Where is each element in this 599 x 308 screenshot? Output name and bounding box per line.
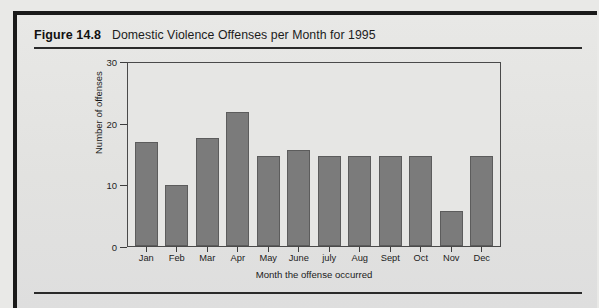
bar-jan (135, 142, 158, 246)
x-tick-slot (253, 247, 284, 252)
caption-divider (34, 47, 582, 49)
bar-slot (253, 63, 284, 246)
x-axis: JanFebMarAprMayJunejulyAugSeptOctNovDec … (127, 247, 501, 281)
figure-box: Figure 14.8 Domestic Violence Offenses p… (13, 11, 597, 308)
x-axis-ticks (128, 247, 500, 252)
x-tick-slot (314, 247, 345, 252)
chart-plot-area (127, 62, 501, 247)
y-tick (120, 247, 127, 248)
bar-slot (131, 63, 162, 246)
bar-june (287, 150, 310, 246)
x-tick-label-june: June (284, 253, 315, 263)
y-tick (120, 62, 127, 63)
x-tick-label-nov: Nov (436, 253, 467, 263)
x-tick (268, 247, 269, 252)
bar-slot (162, 63, 193, 246)
x-tick (390, 247, 391, 252)
bar-july (318, 156, 341, 246)
x-tick (481, 247, 482, 252)
figure-title: Domestic Violence Offenses per Month for… (112, 28, 376, 42)
bar-aug (348, 156, 371, 246)
y-tick-label: 10 (106, 180, 117, 191)
figure-bottom-divider (34, 292, 582, 294)
x-tick-slot (284, 247, 315, 252)
bar-slot (406, 63, 437, 246)
bar-slot (314, 63, 345, 246)
bar-slot (223, 63, 254, 246)
bar-apr (226, 112, 249, 246)
x-tick (359, 247, 360, 252)
x-tick (451, 247, 452, 252)
x-tick-slot (436, 247, 467, 252)
x-tick-label-sept: Sept (375, 253, 406, 263)
bar-series (128, 63, 500, 246)
x-tick-label-mar: Mar (192, 253, 223, 263)
x-tick-slot (162, 247, 193, 252)
bar-slot (467, 63, 498, 246)
x-tick-label-oct: Oct (406, 253, 437, 263)
bar-may (257, 156, 280, 246)
y-axis-title: Number of offenses (93, 71, 104, 154)
y-tick-label: 20 (106, 118, 117, 129)
x-axis-tick-labels: JanFebMarAprMayJunejulyAugSeptOctNovDec (128, 253, 500, 263)
x-tick-label-feb: Feb (162, 253, 193, 263)
x-tick-label-dec: Dec (467, 253, 498, 263)
x-tick (298, 247, 299, 252)
x-tick-label-apr: Apr (223, 253, 254, 263)
bar-slot (436, 63, 467, 246)
bar-slot (192, 63, 223, 246)
bar-slot (345, 63, 376, 246)
x-tick-slot (406, 247, 437, 252)
x-tick-label-july: july (314, 253, 345, 263)
y-tick (120, 124, 127, 125)
x-tick (207, 247, 208, 252)
x-tick-label-jan: Jan (131, 253, 162, 263)
y-tick-label: 30 (106, 57, 117, 68)
y-tick (120, 185, 127, 186)
x-tick-label-may: May (253, 253, 284, 263)
x-axis-title: Month the offense occurred (127, 269, 501, 280)
x-tick-slot (131, 247, 162, 252)
x-tick (329, 247, 330, 252)
x-tick (237, 247, 238, 252)
x-tick-slot (467, 247, 498, 252)
bar-feb (165, 185, 188, 246)
figure-caption: Figure 14.8 Domestic Violence Offenses p… (34, 28, 579, 48)
x-tick-slot (223, 247, 254, 252)
bar-sept (379, 156, 402, 246)
bar-dec (470, 156, 493, 246)
x-tick-label-aug: Aug (345, 253, 376, 263)
x-tick-slot (345, 247, 376, 252)
bar-nov (440, 211, 463, 246)
y-tick-label: 0 (112, 242, 117, 253)
bar-oct (409, 156, 432, 246)
bar-mar (196, 138, 219, 246)
x-tick-slot (375, 247, 406, 252)
x-tick (146, 247, 147, 252)
figure-number: Figure 14.8 (34, 28, 112, 42)
bar-slot (375, 63, 406, 246)
x-tick (420, 247, 421, 252)
x-tick-slot (192, 247, 223, 252)
x-tick (176, 247, 177, 252)
bar-slot (284, 63, 315, 246)
